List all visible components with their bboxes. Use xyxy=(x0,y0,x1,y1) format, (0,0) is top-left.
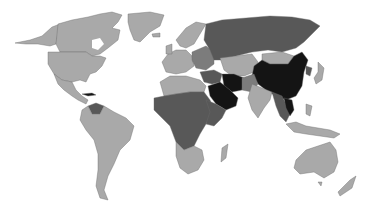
region-korea xyxy=(306,66,312,76)
region-australia xyxy=(294,142,338,178)
region-new-zealand xyxy=(338,176,356,196)
region-iceland xyxy=(152,33,160,37)
region-central-africa xyxy=(154,92,214,150)
region-tasmania xyxy=(318,182,322,186)
region-alaska xyxy=(15,24,60,46)
region-indonesia xyxy=(286,122,340,138)
region-cuba xyxy=(82,93,96,96)
region-greenland xyxy=(128,12,164,42)
region-madagascar xyxy=(221,144,228,162)
region-south-america xyxy=(80,106,134,200)
region-canada xyxy=(56,12,122,56)
world-choropleth-map xyxy=(0,0,386,218)
region-japan xyxy=(314,62,324,84)
region-philippines xyxy=(306,104,312,116)
region-kazakhstan-central-asia xyxy=(220,54,258,76)
region-scandinavia xyxy=(176,22,206,48)
region-middle-east-other xyxy=(200,70,222,84)
region-uk xyxy=(166,44,172,54)
